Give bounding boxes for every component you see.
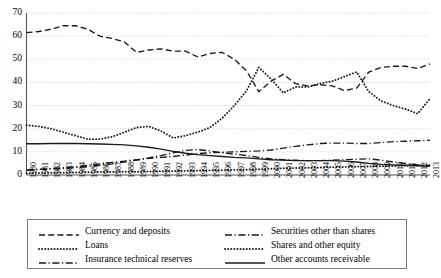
legend-label: Shares and other equity	[271, 240, 360, 250]
y-tick-label: 70	[2, 8, 22, 18]
y-tick-label: 10	[2, 147, 22, 157]
legend-line-swatch	[38, 226, 80, 236]
legend-line-swatch	[224, 240, 266, 250]
x-tick-label: 1997	[238, 162, 246, 178]
legend-label: Insurance technical reserves	[85, 254, 192, 264]
x-tick-label: 1990	[152, 162, 160, 178]
legend-column-right: Securities other than sharesShares and o…	[224, 224, 375, 266]
y-tick-label: 60	[2, 31, 22, 41]
x-tick-label: 2009	[384, 162, 392, 178]
x-tick-label: 2011	[409, 162, 417, 178]
x-tick-label: 1981	[42, 162, 50, 178]
x-tick-label: 2005	[335, 162, 343, 178]
legend-label: Securities other than shares	[271, 226, 375, 236]
data-series-group	[27, 26, 431, 173]
x-tick-label: 1989	[140, 162, 148, 178]
y-tick-label: 40	[2, 77, 22, 87]
x-tick-label: 1987	[115, 162, 123, 178]
legend-line-swatch	[224, 226, 266, 236]
gridlines	[27, 13, 431, 175]
legend-item: Other accounts receivable	[224, 252, 375, 266]
x-tick-label: 2010	[397, 162, 405, 178]
x-tick-label: 1984	[79, 162, 87, 178]
x-tick-label: 1991	[164, 162, 172, 178]
legend-column-left: Currency and depositsLoansInsurance tech…	[38, 224, 192, 266]
x-tick-label: 1998	[250, 162, 258, 178]
legend-label: Loans	[85, 240, 108, 250]
x-tick-label: 2003	[311, 162, 319, 178]
x-tick-label: 1986	[103, 162, 111, 178]
x-tick-label: 1980	[30, 162, 38, 178]
x-tick-label: 2013	[433, 162, 441, 178]
x-tick-label: 2007	[360, 162, 368, 178]
x-tick-label: 2012	[421, 162, 429, 178]
chart-legend: Currency and depositsLoansInsurance tech…	[27, 219, 407, 269]
legend-line-swatch	[38, 254, 80, 264]
legend-line-swatch	[38, 240, 80, 250]
x-tick-label: 2004	[323, 162, 331, 178]
x-tick-label: 1988	[128, 162, 136, 178]
legend-label: Other accounts receivable	[271, 254, 370, 264]
x-tick-label: 2000	[274, 162, 282, 178]
y-tick-label: 20	[2, 124, 22, 134]
legend-item: Securities other than shares	[224, 224, 375, 238]
legend-item: Currency and deposits	[38, 224, 192, 238]
legend-item: Insurance technical reserves	[38, 252, 192, 266]
x-tick-label: 1996	[225, 162, 233, 178]
x-tick-label: 1982	[54, 162, 62, 178]
series-line-currency-and-deposits	[27, 26, 431, 92]
x-tick-label: 1994	[201, 162, 209, 178]
x-tick-label: 2002	[299, 162, 307, 178]
legend-label: Currency and deposits	[85, 226, 170, 236]
legend-item: Loans	[38, 238, 192, 252]
x-tick-label: 1983	[66, 162, 74, 178]
axis-lines	[27, 13, 431, 175]
x-tick-label: 2008	[372, 162, 380, 178]
x-tick-label: 1999	[262, 162, 270, 178]
y-tick-label: 50	[2, 54, 22, 64]
x-tick-label: 1992	[176, 162, 184, 178]
y-tick-label: 0	[2, 170, 22, 180]
legend-item: Shares and other equity	[224, 238, 375, 252]
x-tick-label: 1985	[91, 162, 99, 178]
x-tick-label: 1993	[189, 162, 197, 178]
legend-line-swatch	[224, 254, 266, 264]
x-tick-label: 1995	[213, 162, 221, 178]
x-tick-label: 2006	[348, 162, 356, 178]
y-tick-label: 30	[2, 101, 22, 111]
x-tick-label: 2001	[286, 162, 294, 178]
